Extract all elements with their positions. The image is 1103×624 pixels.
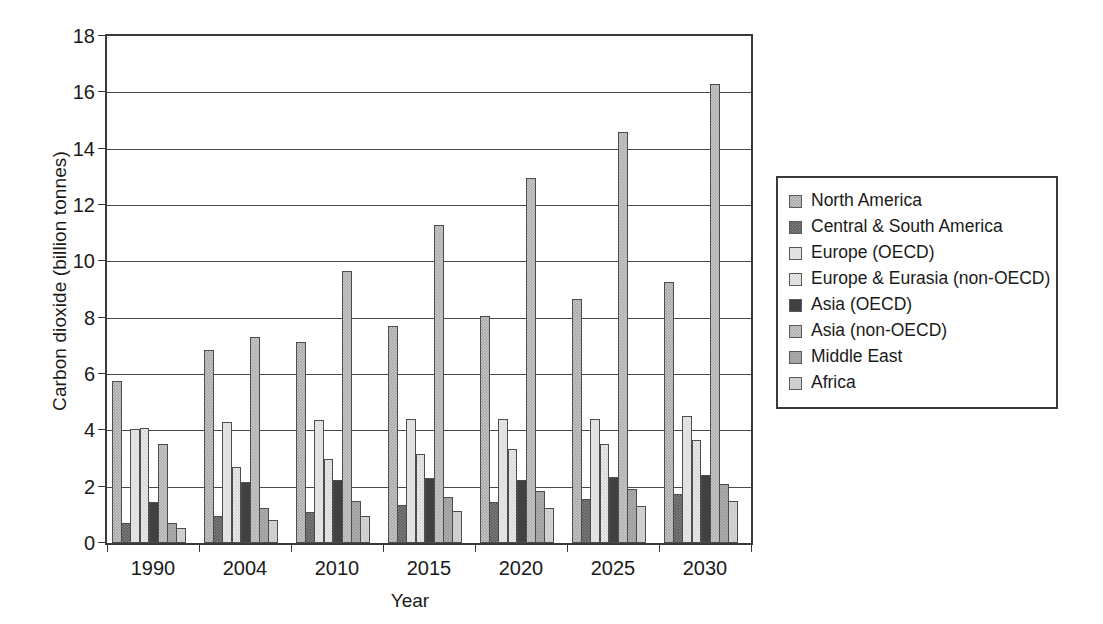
legend-item: Asia (OECD): [789, 292, 1046, 318]
legend-label: Asia (non-OECD): [811, 322, 947, 340]
legend-item: Africa: [789, 370, 1046, 396]
y-axis-tick-label: 12: [73, 194, 95, 217]
x-axis-tick-label: 2010: [315, 557, 360, 580]
plot-area: 0246810121416181990200420102015202020252…: [105, 34, 753, 545]
legend-label: Europe & Eurasia (non-OECD): [811, 270, 1050, 288]
y-axis-tick-label: 14: [73, 137, 95, 160]
y-axis-tick-mark: [98, 204, 107, 205]
co2-emissions-bar-chart: Carbon dioxide (billion tonnes) 02468101…: [0, 0, 1103, 624]
x-axis-tick-mark: [567, 543, 568, 552]
x-axis-tick-label: 2020: [499, 557, 544, 580]
x-axis-tick-mark: [383, 543, 384, 552]
gridline: [107, 92, 751, 93]
bar: [526, 178, 536, 543]
gridline: [107, 261, 751, 262]
bar: [268, 520, 278, 543]
y-axis-tick-mark: [98, 91, 107, 92]
x-axis-tick-mark: [751, 543, 752, 552]
y-axis-tick-mark: [98, 317, 107, 318]
x-axis-tick-label: 2030: [683, 557, 728, 580]
y-axis-tick-mark: [98, 486, 107, 487]
bar: [204, 350, 214, 543]
x-axis-tick-mark: [107, 543, 108, 552]
bar: [176, 528, 186, 543]
bar: [452, 511, 462, 543]
bar: [636, 506, 646, 543]
y-axis-tick-label: 6: [84, 363, 95, 386]
legend-item: North America: [789, 188, 1046, 214]
legend-label: Europe (OECD): [811, 244, 935, 262]
legend-item: Europe & Eurasia (non-OECD): [789, 266, 1046, 292]
bar: [728, 501, 738, 543]
bar: [434, 225, 444, 543]
x-axis-tick-mark: [659, 543, 660, 552]
legend-label: Middle East: [811, 348, 902, 366]
y-axis-tick-label: 18: [73, 25, 95, 48]
legend-swatch-icon: [789, 325, 802, 338]
x-axis-tick-label: 2004: [223, 557, 268, 580]
legend-swatch-icon: [789, 221, 802, 234]
bar: [544, 508, 554, 543]
legend-label: North America: [811, 192, 922, 210]
legend-label: Asia (OECD): [811, 296, 912, 314]
legend-swatch-icon: [789, 351, 802, 364]
legend-swatch-icon: [789, 247, 802, 260]
y-axis-tick-label: 4: [84, 419, 95, 442]
legend-swatch-icon: [789, 273, 802, 286]
x-axis-tick-label: 1990: [131, 557, 176, 580]
x-axis-tick-label: 2025: [591, 557, 636, 580]
legend-label: Central & South America: [811, 218, 1003, 236]
y-axis-tick-label: 16: [73, 81, 95, 104]
y-axis-tick-mark: [98, 148, 107, 149]
bar: [618, 132, 628, 543]
bar: [360, 516, 370, 543]
y-axis-tick-label: 10: [73, 250, 95, 273]
legend-swatch-icon: [789, 377, 802, 390]
y-axis-tick-mark: [98, 35, 107, 36]
x-axis-tick-mark: [199, 543, 200, 552]
y-axis-tick-label: 2: [84, 475, 95, 498]
gridline: [107, 318, 751, 319]
y-axis-tick-label: 0: [84, 532, 95, 555]
legend-label: Africa: [811, 374, 856, 392]
y-axis-title: Carbon dioxide (billion tonnes): [49, 71, 71, 491]
legend-swatch-icon: [789, 195, 802, 208]
gridline: [107, 205, 751, 206]
chart-legend: North AmericaCentral & South AmericaEuro…: [776, 176, 1058, 409]
legend-swatch-icon: [789, 299, 802, 312]
legend-item: Europe (OECD): [789, 240, 1046, 266]
y-axis-tick-mark: [98, 542, 107, 543]
bar: [112, 381, 122, 543]
y-axis-tick-mark: [98, 260, 107, 261]
x-axis-tick-mark: [475, 543, 476, 552]
x-axis-title: Year: [70, 590, 750, 612]
y-axis-tick-mark: [98, 429, 107, 430]
legend-item: Asia (non-OECD): [789, 318, 1046, 344]
x-axis-tick-label: 2015: [407, 557, 452, 580]
x-axis-tick-mark: [291, 543, 292, 552]
y-axis-tick-mark: [98, 373, 107, 374]
y-axis-tick-label: 8: [84, 306, 95, 329]
legend-item: Central & South America: [789, 214, 1046, 240]
gridline: [107, 149, 751, 150]
bar: [710, 84, 720, 543]
legend-item: Middle East: [789, 344, 1046, 370]
